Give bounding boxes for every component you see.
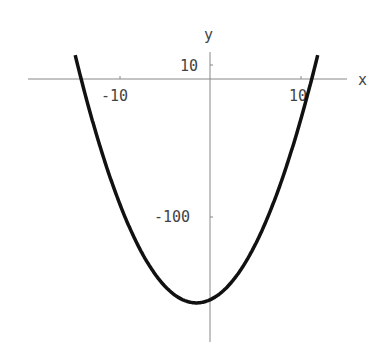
x-tick-label: -10 bbox=[101, 87, 128, 105]
y-axis-label: y bbox=[204, 26, 213, 44]
chart: x y -10 10 10 -100 bbox=[0, 0, 387, 360]
plot-area: x y -10 10 10 -100 bbox=[0, 0, 387, 360]
y-tick-label: -100 bbox=[154, 208, 190, 226]
x-axis-label: x bbox=[358, 71, 367, 89]
y-tick-label: 10 bbox=[180, 57, 198, 75]
